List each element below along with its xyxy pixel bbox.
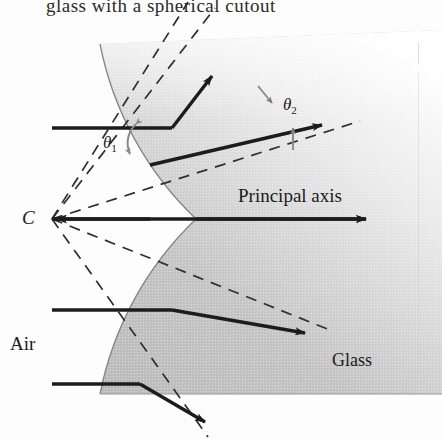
figure-canvas: glass with a spherical cutout C Air Glas… <box>0 0 442 439</box>
label-principal-axis: Principal axis <box>238 185 342 207</box>
figure-caption: glass with a spherical cutout <box>46 0 276 17</box>
label-air-medium: Air <box>10 333 35 355</box>
label-glass-medium: Glass <box>332 350 372 371</box>
label-theta2: θ2 <box>283 95 297 116</box>
label-theta1: θ1 <box>103 133 117 154</box>
theta2-subscript: 2 <box>291 104 297 116</box>
optics-refraction-diagram <box>0 0 442 439</box>
label-center-of-curvature: C <box>22 207 35 229</box>
scan-artifact-lower <box>418 73 419 373</box>
theta1-subscript: 1 <box>111 142 117 154</box>
scan-artifact-upper <box>418 42 419 64</box>
